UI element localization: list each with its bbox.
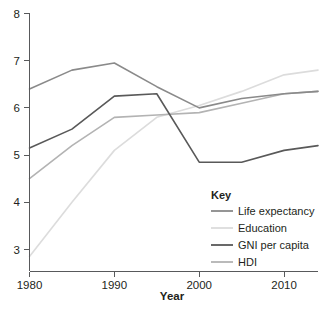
legend-label-life-expectancy: Life expectancy <box>238 205 315 217</box>
x-tick-label: 1990 <box>102 279 128 291</box>
y-tick-label: 4 <box>14 196 21 208</box>
legend: Key Life expectancyEducationGNI per capi… <box>203 186 318 269</box>
chart-background <box>0 0 320 318</box>
legend-label-hdi: HDI <box>238 256 257 268</box>
y-tick-label: 8 <box>14 8 20 20</box>
x-tick-label: 2000 <box>186 279 212 291</box>
y-tick-label: 6 <box>14 102 20 114</box>
x-tick-label: 1980 <box>17 279 43 291</box>
x-tick-label: 2010 <box>271 279 297 291</box>
y-tick-label: 5 <box>14 149 20 161</box>
line-chart: 345678 1980199020002010 Year Key Life ex… <box>0 0 320 318</box>
legend-title: Key <box>211 189 232 201</box>
y-tick-label: 7 <box>14 55 20 67</box>
y-tick-label: 3 <box>14 244 20 256</box>
chart-canvas: 345678 1980199020002010 Year Key Life ex… <box>0 0 320 318</box>
x-axis-title: Year <box>160 290 185 302</box>
legend-label-education: Education <box>238 222 287 234</box>
legend-label-gni-per-capita: GNI per capita <box>238 239 310 251</box>
